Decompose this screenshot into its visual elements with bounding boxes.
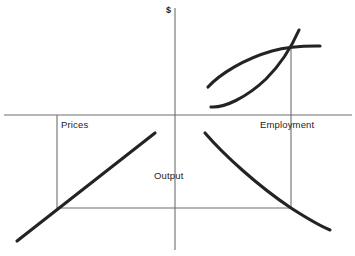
economic-quadrant-diagram: $ Prices Output Employment [0, 0, 355, 256]
employment-label: Employment [260, 120, 314, 130]
dollar-axis-label: $ [166, 6, 171, 15]
prices-straight-line [17, 133, 155, 241]
lower-convex-rising-curve [211, 30, 299, 107]
prices-label: Prices [61, 120, 88, 130]
employment-decay-curve [205, 133, 330, 230]
output-label: Output [154, 171, 183, 181]
